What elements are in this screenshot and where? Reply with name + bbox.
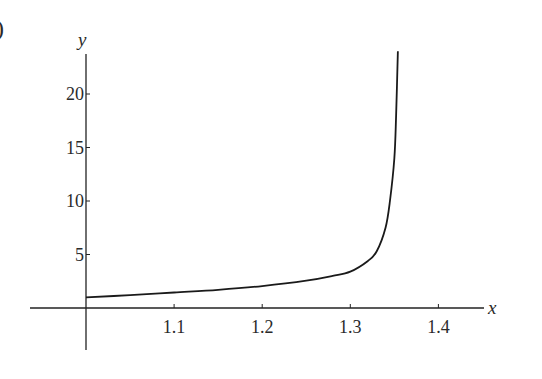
y-tick-label: 20 [66,84,84,104]
x-axis-label: x [487,297,497,318]
y-tick-label: 5 [75,245,84,265]
y-tick-label: 10 [66,191,84,211]
chart: ) x y 1.11.21.31.4 5101520 [0,0,542,379]
y-axis-label: y [76,29,87,50]
y-tick-label: 15 [66,138,84,158]
panel-label: ) [0,15,4,41]
x-tick-label: 1.3 [339,317,362,337]
data-curve [86,51,398,297]
x-tick-label: 1.1 [163,317,186,337]
x-tick-label: 1.2 [251,317,274,337]
x-tick-label: 1.4 [427,317,450,337]
x-ticks: 1.11.21.31.4 [163,304,450,337]
